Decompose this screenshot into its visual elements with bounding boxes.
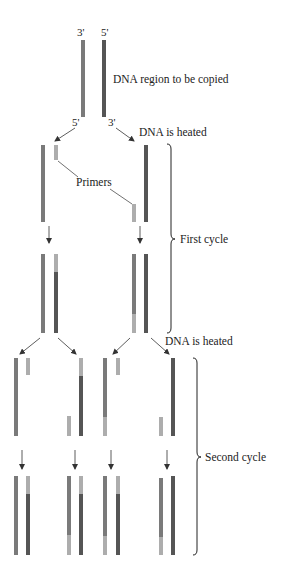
label-heated-1: DNA is heated [139,126,207,138]
primer-c2-2 [67,416,71,436]
first-cycle-brace: First cycle [167,144,228,333]
arrow-split-left [55,128,75,141]
primer-leader-left [58,161,78,177]
strand-c2-3-new [103,358,107,417]
strand-p2-2b-new [79,494,83,555]
strand-c1-right [144,145,148,222]
strand-p1-b-primer [54,254,58,272]
strand-c2-3-primer [103,417,107,436]
strand-c1-left [41,145,45,222]
primer-c1-left [54,145,58,160]
pcr-diagram: 3' 5' DNA region to be copied 5' 3' DNA … [0,0,287,574]
first-cycle-products [41,254,148,333]
primer-leader-right [110,189,132,204]
strand-p2-4b [171,476,175,555]
strand-c2-2-primer [79,358,83,376]
strand-p2-2a-primer [67,535,71,555]
second-cycle-brace: Second cycle [193,358,266,555]
label-heated-2: DNA is heated [165,335,233,347]
label-top-5prime: 5' [101,26,109,38]
strand-p1-d [144,254,148,333]
label-top-3prime: 3' [77,26,85,38]
label-region-to-copy: DNA region to be copied [113,73,229,86]
strand-p2-4a-new [159,478,163,537]
strand-p2-2b-primer [79,476,83,494]
first-cycle-separated: Primers [41,145,148,222]
strand-p2-3b-primer [116,476,120,494]
arrow-split-right [116,128,134,141]
strand-p1-b-new [54,272,58,333]
primer-c1-right [132,204,136,222]
strand-p2-1b-primer [26,476,30,494]
primer-c2-3 [116,358,120,375]
label-split-3prime: 3' [108,116,116,128]
brace-icon [193,358,201,555]
brace-icon [167,144,175,333]
strand-p2-3b-new [116,494,120,555]
strand-p2-3a-new [103,476,107,536]
split-2: DNA is heated [20,335,233,354]
arrow-split2-3 [113,338,130,354]
arrow-split2-1 [20,338,40,354]
strand-p2-3a-primer [103,536,107,555]
second-cycle-products [14,476,175,555]
strand-original-b [102,40,106,117]
strand-c2-4 [171,358,175,436]
label-primers: Primers [76,176,112,188]
strand-c2-2-new [79,376,83,436]
strand-p2-2a-new [67,476,71,535]
arrow-split2-2 [58,338,76,354]
primer-c2-1 [26,358,30,375]
label-second-cycle: Second cycle [205,451,266,464]
split-1: 5' 3' DNA is heated [55,116,207,141]
strand-p1-c-new [132,254,136,314]
label-split-5prime: 5' [72,116,80,128]
strand-c2-1 [14,358,18,436]
strand-original-a [81,40,85,117]
primer-c2-4 [159,417,163,436]
label-first-cycle: First cycle [180,233,228,246]
second-cycle-separated [14,358,175,436]
original-dna: 3' 5' DNA region to be copied [77,26,229,117]
strand-p2-4a-primer [159,537,163,555]
strand-p1-a [41,254,45,333]
strand-p2-1a [14,476,18,555]
strand-p1-c-primer [132,314,136,333]
strand-p2-1b-new [26,494,30,555]
